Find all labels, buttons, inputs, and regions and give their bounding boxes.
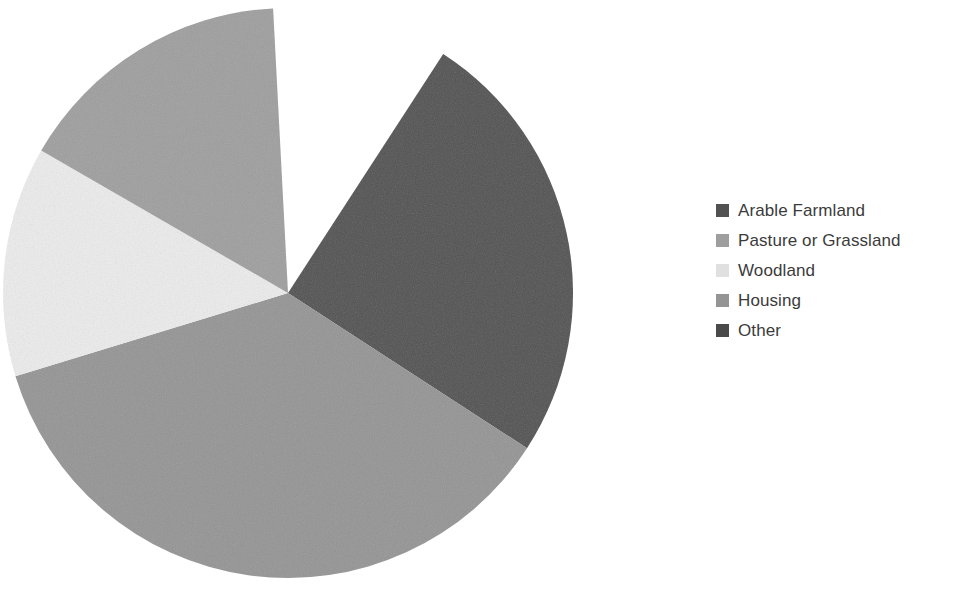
legend-label: Housing	[738, 291, 801, 310]
pie-chart: Arable Farmland Pasture or Grassland Woo…	[0, 0, 964, 591]
legend-item-arable-farmland[interactable]: Arable Farmland	[716, 195, 964, 225]
legend-item-other[interactable]: Other	[716, 315, 964, 345]
pie-plot-area	[0, 0, 620, 591]
pie-slices-grain	[3, 8, 573, 578]
pie-svg	[0, 0, 620, 591]
legend-item-housing[interactable]: Housing	[716, 285, 964, 315]
legend-swatch-icon	[716, 324, 729, 337]
legend-swatch-icon	[716, 234, 729, 247]
legend-label: Woodland	[738, 261, 815, 280]
legend-swatch-icon	[716, 204, 729, 217]
legend-item-pasture-or-grassland[interactable]: Pasture or Grassland	[716, 225, 964, 255]
legend-label: Other	[738, 321, 781, 340]
legend-item-woodland[interactable]: Woodland	[716, 255, 964, 285]
legend-swatch-icon	[716, 264, 729, 277]
legend-label: Pasture or Grassland	[738, 231, 901, 250]
chart-legend: Arable Farmland Pasture or Grassland Woo…	[716, 195, 964, 345]
legend-swatch-icon	[716, 294, 729, 307]
legend-label: Arable Farmland	[738, 201, 865, 220]
